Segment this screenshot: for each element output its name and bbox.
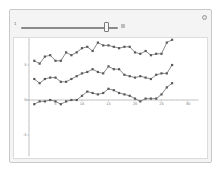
data-point bbox=[70, 54, 72, 56]
data-point bbox=[92, 50, 94, 52]
data-point bbox=[150, 54, 152, 56]
data-point bbox=[166, 86, 168, 88]
data-point bbox=[129, 46, 131, 48]
data-point bbox=[134, 77, 136, 79]
x-tick-label: 15 bbox=[106, 102, 111, 106]
data-point bbox=[129, 95, 131, 97]
slider-thumb[interactable] bbox=[104, 22, 109, 32]
data-point bbox=[54, 100, 56, 102]
data-point bbox=[39, 100, 41, 102]
data-point bbox=[171, 64, 173, 66]
data-point bbox=[113, 46, 115, 48]
data-point bbox=[70, 78, 72, 80]
data-point bbox=[118, 92, 120, 94]
data-point bbox=[92, 92, 94, 94]
y-tick-label: -5 bbox=[23, 133, 27, 137]
circle-options-icon[interactable] bbox=[202, 15, 207, 20]
data-point bbox=[76, 51, 78, 53]
plot-panel: 5101520253050-5 bbox=[13, 37, 208, 159]
data-point bbox=[139, 53, 141, 55]
x-tick-label: 20 bbox=[133, 102, 138, 106]
data-point bbox=[65, 100, 67, 102]
controls-area: 1 bbox=[10, 10, 211, 36]
data-point bbox=[44, 100, 46, 102]
data-point bbox=[166, 42, 168, 44]
data-point bbox=[155, 98, 157, 100]
data-point bbox=[97, 93, 99, 95]
data-point bbox=[113, 68, 115, 70]
x-tick-label: 10 bbox=[80, 102, 85, 106]
data-point bbox=[123, 93, 125, 95]
data-point bbox=[107, 88, 109, 90]
data-point bbox=[81, 95, 83, 97]
data-point bbox=[33, 78, 35, 80]
data-point bbox=[54, 77, 56, 79]
data-point bbox=[60, 60, 62, 62]
data-point bbox=[134, 51, 136, 53]
data-point bbox=[33, 103, 35, 105]
x-tick-label: 5 bbox=[54, 102, 56, 106]
data-point bbox=[107, 44, 109, 46]
data-point bbox=[107, 65, 109, 67]
manipulate-panel: 1 5101520253050-5 bbox=[9, 9, 212, 163]
data-point bbox=[86, 46, 88, 48]
plus-expander-icon[interactable] bbox=[121, 24, 125, 28]
data-point bbox=[150, 78, 152, 80]
data-point bbox=[86, 71, 88, 73]
data-point bbox=[139, 75, 141, 77]
data-point bbox=[150, 98, 152, 100]
data-point bbox=[123, 74, 125, 76]
data-point bbox=[118, 68, 120, 70]
data-point bbox=[81, 47, 83, 49]
data-point bbox=[145, 50, 147, 52]
data-point bbox=[160, 93, 162, 95]
slider-min-label: 1 bbox=[14, 21, 17, 26]
data-point bbox=[123, 46, 125, 48]
data-point bbox=[39, 63, 41, 65]
data-point bbox=[171, 82, 173, 84]
y-tick-label: 5 bbox=[24, 63, 26, 67]
line-chart: 5101520253050-5 bbox=[14, 38, 207, 158]
data-point bbox=[166, 72, 168, 74]
data-point bbox=[155, 53, 157, 55]
data-point bbox=[44, 56, 46, 58]
data-point bbox=[70, 99, 72, 101]
data-point bbox=[145, 98, 147, 100]
data-point bbox=[49, 77, 51, 79]
data-point bbox=[155, 74, 157, 76]
data-point bbox=[49, 99, 51, 101]
data-point bbox=[97, 42, 99, 44]
data-point bbox=[65, 81, 67, 83]
data-point bbox=[113, 89, 115, 91]
data-point bbox=[76, 75, 78, 77]
data-point bbox=[76, 99, 78, 101]
data-point bbox=[145, 77, 147, 79]
data-point bbox=[54, 60, 56, 62]
data-point bbox=[81, 72, 83, 74]
data-point bbox=[65, 51, 67, 53]
data-point bbox=[102, 72, 104, 74]
data-point bbox=[102, 92, 104, 94]
x-tick-label: 25 bbox=[159, 102, 164, 106]
x-tick-label: 30 bbox=[186, 102, 191, 106]
data-point bbox=[60, 81, 62, 83]
data-point bbox=[129, 75, 131, 77]
data-point bbox=[60, 103, 62, 105]
data-point bbox=[97, 71, 99, 73]
data-point bbox=[134, 98, 136, 100]
data-point bbox=[44, 78, 46, 80]
data-point bbox=[39, 82, 41, 84]
data-point bbox=[118, 47, 120, 49]
data-point bbox=[139, 100, 141, 102]
y-tick-label: 0 bbox=[24, 98, 27, 102]
data-point bbox=[92, 68, 94, 70]
data-point bbox=[160, 53, 162, 55]
data-point bbox=[171, 39, 173, 41]
data-point bbox=[102, 44, 104, 46]
data-point bbox=[160, 72, 162, 74]
data-point bbox=[33, 60, 35, 62]
data-point bbox=[86, 91, 88, 93]
data-point bbox=[49, 54, 51, 56]
